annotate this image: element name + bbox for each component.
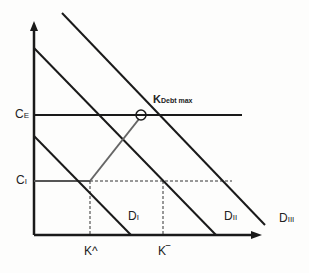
d3-label: DIII bbox=[279, 212, 294, 224]
k-debt-max-label: KDebt max bbox=[153, 94, 192, 105]
d1-label: DI bbox=[128, 210, 139, 222]
k-hat-label: K^ bbox=[84, 245, 98, 257]
capital-demand-diagram: CE CI KDebt max DI DII DIII K^ K‾ bbox=[0, 0, 309, 273]
d2-label: DII bbox=[224, 210, 237, 222]
demand-curve-d2 bbox=[34, 48, 216, 235]
debt-path-line bbox=[90, 119, 139, 181]
ci-label: CI bbox=[16, 174, 27, 186]
ce-label: CE bbox=[15, 108, 29, 120]
k-bar-label: K‾ bbox=[158, 245, 170, 257]
y-axis-arrow-icon bbox=[30, 21, 38, 31]
x-axis-arrow-icon bbox=[251, 231, 262, 239]
demand-curve-d1 bbox=[34, 136, 131, 235]
diagram-canvas bbox=[0, 0, 309, 273]
